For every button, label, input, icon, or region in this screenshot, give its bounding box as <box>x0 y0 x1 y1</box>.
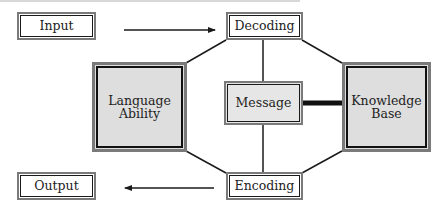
message-label: Message <box>236 96 292 109</box>
decoding-knowledge-line <box>302 40 342 63</box>
language-ability-label-line2: Ability <box>119 107 160 120</box>
language-ability-box: Language Ability <box>92 62 187 152</box>
output-box: Output <box>17 172 96 200</box>
output-label: Output <box>34 179 78 192</box>
language-encoding-line <box>186 151 226 173</box>
message-box: Message <box>224 81 303 125</box>
input-box: Input <box>17 12 96 40</box>
knowledge-encoding-line <box>302 151 342 173</box>
decoding-box: Decoding <box>226 12 303 40</box>
encoding-box: Encoding <box>226 172 303 200</box>
communication-diagram: Input Decoding Language Ability Message … <box>0 0 441 206</box>
knowledge-base-box: Knowledge Base <box>342 62 431 152</box>
decoding-language-line <box>186 40 226 63</box>
knowledge-base-label-line2: Base <box>371 107 401 120</box>
decoding-label: Decoding <box>235 19 295 32</box>
encoding-label: Encoding <box>235 179 295 192</box>
input-label: Input <box>39 19 73 32</box>
